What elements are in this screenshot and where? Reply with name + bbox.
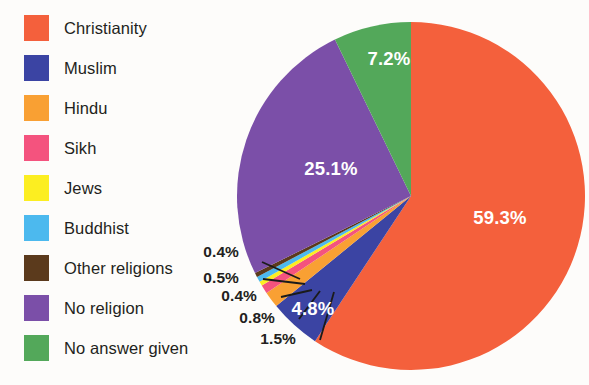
pie-slice-value-label: 59.3% [473, 207, 526, 228]
pie-slice-value-label: 25.1% [304, 158, 357, 179]
pie-chart-svg: 59.3%4.8%25.1%7.2% 0.4%0.5%0.4%0.8%1.5% [0, 0, 589, 385]
pie-callout-value-label: 0.5% [203, 269, 239, 286]
chart-page: ChristianityMuslimHinduSikhJewsBuddhistO… [0, 0, 589, 385]
pie-callout-value-label: 0.4% [221, 287, 257, 304]
pie-slice-value-label: 7.2% [368, 48, 411, 69]
pie-slices [237, 22, 585, 370]
pie-callout-value-label: 0.8% [239, 309, 275, 326]
pie-callout-value-label: 0.4% [203, 243, 239, 260]
pie-slice-value-label: 4.8% [292, 298, 335, 319]
pie-callout-value-label: 1.5% [260, 330, 296, 347]
pie-chart: 59.3%4.8%25.1%7.2% 0.4%0.5%0.4%0.8%1.5% [0, 0, 589, 385]
